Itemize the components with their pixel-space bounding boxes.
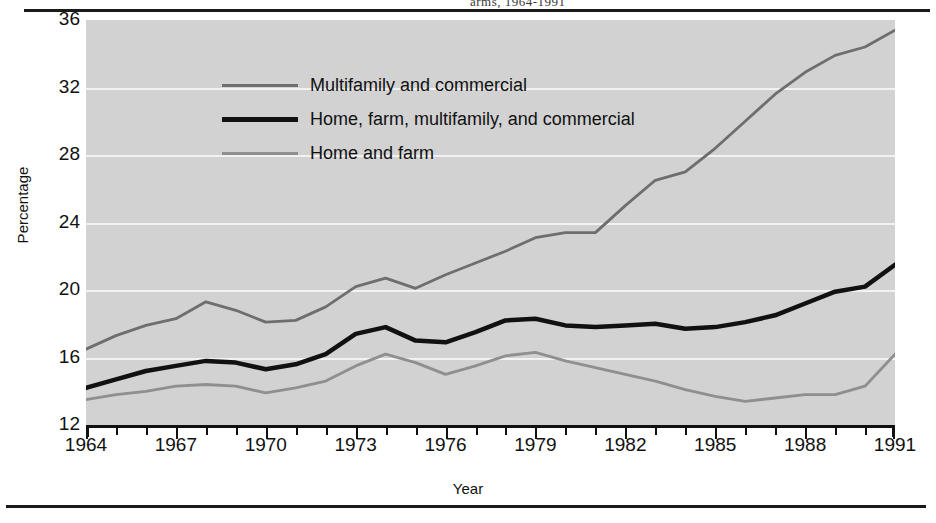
x-tick-mark [505,428,507,435]
x-tick-mark [715,428,717,439]
x-tick-mark [236,428,238,435]
x-tick-mark [86,428,88,439]
x-tick-mark [775,428,777,435]
x-tick-mark [116,428,118,435]
top-rule [24,9,930,12]
legend-item: Home, farm, multifamily, and commercial [222,102,762,136]
x-tick-mark [296,428,298,435]
x-tick-mark [685,428,687,435]
x-tick-mark [446,428,448,439]
x-tick-mark [176,428,178,439]
x-tick-mark [266,428,268,439]
y-axis-label: Percentage [14,145,34,265]
legend-label: Home, farm, multifamily, and commercial [310,109,635,130]
x-tick-mark [416,428,418,435]
x-axis [86,425,895,441]
bottom-rule [6,505,926,508]
legend-label: Home and farm [310,143,434,164]
series-line [86,265,895,388]
y-tick-label: 16 [38,346,80,368]
chart-figure: arms, 1964-1991 Percentage Year 36322824… [0,0,936,523]
x-tick-mark [865,428,867,435]
x-tick-mark [655,428,657,435]
x-tick-mark [386,428,388,435]
legend-swatch [222,117,298,122]
y-tick-label: 32 [38,76,80,98]
x-tick-mark [893,428,895,439]
plot-area: Multifamily and commercialHome, farm, mu… [86,20,895,425]
chart-legend: Multifamily and commercialHome, farm, mu… [222,68,762,170]
x-tick-mark [326,428,328,435]
page-title-fragment: arms, 1964-1991 [470,0,770,8]
legend-item: Home and farm [222,136,762,170]
y-tick-label: 24 [38,211,80,233]
x-tick-mark [625,428,627,439]
x-tick-mark [146,428,148,435]
y-tick-label: 28 [38,143,80,165]
x-tick-mark [835,428,837,435]
y-tick-label: 36 [38,8,80,30]
x-tick-mark [565,428,567,435]
x-tick-mark [535,428,537,439]
x-tick-mark [356,428,358,439]
legend-item: Multifamily and commercial [222,68,762,102]
x-tick-mark [745,428,747,435]
x-tick-mark [206,428,208,435]
x-tick-mark [805,428,807,439]
x-axis-label: Year [0,480,936,497]
legend-swatch [222,84,298,87]
legend-label: Multifamily and commercial [310,75,527,96]
y-tick-label: 12 [38,413,80,435]
x-tick-mark [476,428,478,435]
x-tick-mark [595,428,597,435]
y-tick-label: 20 [38,278,80,300]
legend-swatch [222,152,298,155]
